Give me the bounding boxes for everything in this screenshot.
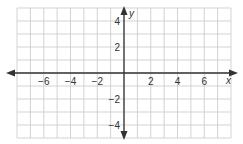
y-axis-down-arrow-icon (121, 131, 128, 140)
axes (6, 6, 238, 140)
y-axis-label: y (128, 8, 135, 19)
x-tick-label: −6 (38, 76, 50, 87)
x-tick-label: 6 (201, 76, 207, 87)
y-tick-label: −4 (109, 120, 121, 131)
y-tick-label: 2 (114, 42, 120, 53)
y-tick-label: −2 (109, 94, 121, 105)
x-axis-label: x (225, 75, 232, 86)
coordinate-plane: −6−4−2246 42−2−4 x y (0, 0, 243, 144)
x-tick-label: 4 (175, 76, 181, 87)
x-tick-labels: −6−4−2246 (38, 76, 207, 87)
y-axis-up-arrow-icon (121, 6, 128, 15)
x-tick-label: −4 (65, 76, 77, 87)
x-tick-label: −2 (92, 76, 104, 87)
x-tick-label: 2 (148, 76, 154, 87)
y-tick-label: 4 (114, 16, 120, 27)
x-axis-left-arrow-icon (6, 70, 15, 77)
